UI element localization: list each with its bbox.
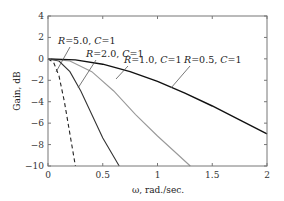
y-axis-label: Gain, dB xyxy=(12,71,22,111)
series-layer xyxy=(48,59,267,166)
y-tick-label: −2 xyxy=(31,75,44,85)
x-tick-label: 0 xyxy=(45,170,51,180)
y-tick-label: −10 xyxy=(25,161,44,171)
x-tick-label: 0.5 xyxy=(96,170,111,180)
y-tick-label: 0 xyxy=(38,54,44,64)
x-tick-label: 1 xyxy=(155,170,161,180)
series-line xyxy=(48,59,190,166)
y-tick-label: −6 xyxy=(31,118,45,128)
series-line xyxy=(48,59,267,134)
x-tick-label: 1.5 xyxy=(205,170,220,180)
x-axis-label: ω, rad./sec. xyxy=(132,185,184,195)
y-tick-label: 4 xyxy=(38,11,44,21)
y-tick-label: −8 xyxy=(31,140,45,150)
series-annotation: R=1.0, C=1 xyxy=(123,54,182,65)
series-line xyxy=(48,59,119,166)
y-tick-label: −4 xyxy=(31,97,45,107)
gain-chart: R=5.0, C=1R=2.0, C=1R=1.0, C=1R=0.5, C=1… xyxy=(0,0,284,201)
series-annotation: R=5.0, C=1 xyxy=(57,35,116,46)
x-tick-label: 2 xyxy=(264,170,270,180)
y-tick-label: 2 xyxy=(38,32,44,42)
series-annotation: R=0.5, C=1 xyxy=(183,54,242,65)
